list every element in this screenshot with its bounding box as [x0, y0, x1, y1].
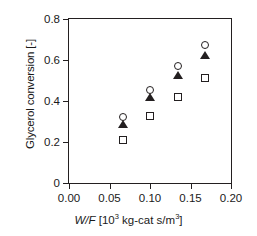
y-axis-tick [63, 142, 69, 143]
x-axis-tick [231, 183, 232, 189]
y-axis-tick-label: 0 [54, 177, 60, 189]
x-axis-tick-label: 0.15 [179, 192, 201, 204]
data-point-open-square [146, 112, 154, 120]
y-axis-tick-label: 0.2 [44, 136, 60, 148]
x-axis-label-close: ] [179, 214, 182, 226]
data-point-filled-triangle [145, 93, 155, 101]
x-axis-tick-label: 0.10 [139, 192, 161, 204]
plot-area: 00.20.40.60.80.000.050.100.150.20 [68, 18, 232, 184]
x-axis-tick-label: 0.05 [98, 192, 120, 204]
y-axis-tick-label: 0.8 [44, 13, 60, 25]
x-axis-tick [110, 183, 111, 189]
data-point-filled-triangle [173, 71, 183, 79]
y-axis-tick-label: 0.4 [44, 95, 60, 107]
x-axis-label-symbol: W/F [74, 214, 95, 226]
y-axis-tick [63, 60, 69, 61]
x-axis-label-open: [10 [96, 214, 115, 226]
y-axis-tick [63, 19, 69, 20]
y-axis-tick [63, 101, 69, 102]
data-point-open-square [119, 136, 127, 144]
y-axis-label: Glycerol conversion [-] [24, 9, 36, 179]
chart-figure: Glycerol conversion [-] 00.20.40.60.80.0… [0, 0, 257, 236]
data-point-open-square [201, 74, 209, 82]
data-point-filled-triangle [118, 120, 128, 128]
x-axis-label: W/F [103 kg-cat s/m3] [0, 212, 257, 226]
x-axis-tick [150, 183, 151, 189]
data-point-filled-triangle [200, 51, 210, 59]
x-axis-tick [191, 183, 192, 189]
data-point-open-circle [201, 41, 209, 49]
y-axis-tick-label: 0.6 [44, 54, 60, 66]
x-axis-tick [69, 183, 70, 189]
x-axis-label-mid: kg-cat s/m [119, 214, 175, 226]
data-point-open-square [174, 93, 182, 101]
x-axis-tick-label: 0.20 [220, 192, 242, 204]
x-axis-tick-label: 0.00 [58, 192, 80, 204]
data-point-open-circle [174, 62, 182, 70]
